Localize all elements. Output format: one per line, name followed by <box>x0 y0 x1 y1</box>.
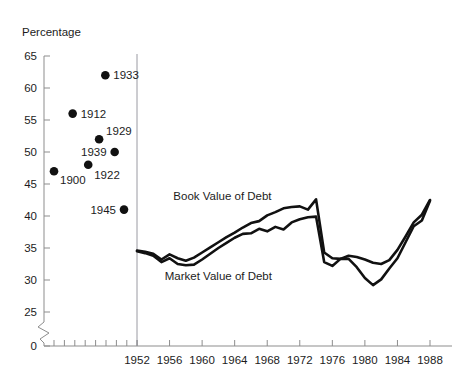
x-tick-label: 1968 <box>254 354 280 366</box>
scatter-dot <box>68 109 77 118</box>
y-tick-label: 25 <box>24 306 37 318</box>
y-tick-label: 0 <box>31 340 37 352</box>
x-tick-label: 1980 <box>352 354 378 366</box>
series-line <box>137 199 430 264</box>
scatter-dot <box>101 71 110 80</box>
scatter-dot <box>110 148 119 157</box>
scatter-point-label: 1900 <box>60 174 86 186</box>
scatter-point-label: 1933 <box>113 69 139 81</box>
y-tick-label: 65 <box>24 50 37 62</box>
x-tick-label: 1960 <box>189 354 215 366</box>
scatter-point-label: 1939 <box>81 146 107 158</box>
y-tick-label: 30 <box>24 274 37 286</box>
scatter-dot <box>120 205 129 214</box>
scatter-point-label: 1945 <box>90 204 116 216</box>
x-axis: 1952195619601964196819721976198019841988 <box>44 340 452 366</box>
y-tick-label: 45 <box>24 178 37 190</box>
x-tick-label: 1952 <box>124 354 150 366</box>
y-axis-title: Percentage <box>22 26 81 38</box>
series-annotations: Book Value of DebtMarket Value of Debt <box>165 190 273 282</box>
scatter-dot <box>84 161 93 170</box>
scatter-point-label: 1929 <box>106 125 132 137</box>
y-tick-label: 60 <box>24 82 37 94</box>
chart-container: Percentage 0253035404550556065 195219561… <box>0 0 467 390</box>
y-tick-label: 35 <box>24 242 37 254</box>
scatter-point-label: 1922 <box>94 169 120 181</box>
x-tick-label: 1972 <box>287 354 313 366</box>
y-tick-label: 55 <box>24 114 37 126</box>
series-label: Book Value of Debt <box>173 190 272 202</box>
y-tick-label: 50 <box>24 146 37 158</box>
x-tick-label: 1976 <box>320 354 346 366</box>
series-label: Market Value of Debt <box>165 270 273 282</box>
scatter-series: 1900191219221929193319391945 <box>50 69 139 215</box>
y-axis: 0253035404550556065 <box>24 50 50 352</box>
scatter-dot <box>95 135 104 144</box>
y-tick-label: 40 <box>24 210 37 222</box>
scatter-dot <box>50 167 59 176</box>
x-tick-label: 1956 <box>157 354 183 366</box>
scatter-point-label: 1912 <box>81 108 107 120</box>
x-tick-label: 1984 <box>385 354 411 366</box>
x-tick-label: 1964 <box>222 354 248 366</box>
y-axis-break-symbol <box>38 322 49 346</box>
x-tick-label: 1988 <box>417 354 443 366</box>
debt-percentage-chart: Percentage 0253035404550556065 195219561… <box>0 0 467 390</box>
